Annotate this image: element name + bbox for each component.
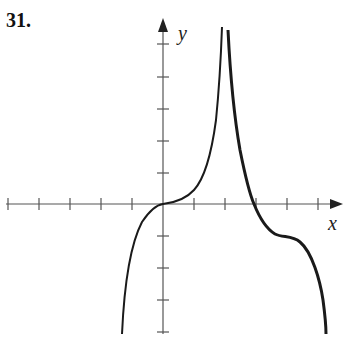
x-axis-arrow-icon xyxy=(330,199,343,209)
x-axis-label: x xyxy=(327,212,337,234)
graph: y x xyxy=(0,0,344,344)
curve-right-branch xyxy=(228,30,326,334)
y-axis-arrow-icon xyxy=(158,18,168,32)
y-axis-label: y xyxy=(176,22,187,45)
curve-left-branch xyxy=(122,27,222,334)
